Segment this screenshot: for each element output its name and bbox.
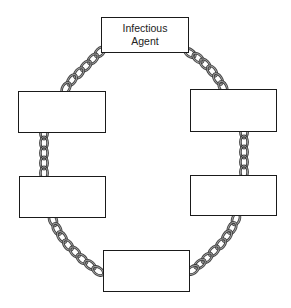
chain-right2-to-bottom-icon [186, 212, 242, 277]
left-lower-box [19, 176, 106, 218]
bottom-box [103, 250, 190, 292]
chain-top-to-left1-icon [60, 45, 107, 95]
chain-of-infection-diagram: Infectious Agent [0, 0, 291, 308]
chain-left1-to-left2-icon [40, 127, 47, 179]
right-upper-box [190, 89, 277, 132]
chain-top-to-right1-icon [183, 46, 229, 94]
left-upper-box [18, 91, 106, 133]
chain-left2-to-bottom-icon [47, 213, 105, 278]
infectious-agent-box: Infectious Agent [101, 17, 189, 53]
box-label: Infectious Agent [123, 22, 168, 48]
chain-right1-to-right2-icon [240, 126, 247, 178]
right-lower-box [190, 175, 277, 216]
